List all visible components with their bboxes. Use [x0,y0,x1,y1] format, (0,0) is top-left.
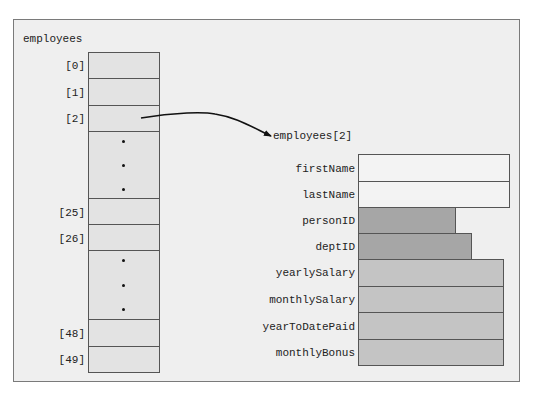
field-label: monthlySalary [269,295,355,306]
field-label: deptID [315,242,355,253]
field-monthlySalary [358,286,504,313]
field-yearlySalary [358,259,504,287]
field-label: lastName [302,190,355,201]
field-label: personID [302,216,355,227]
field-label: yearToDatePaid [263,322,355,333]
field-label: firstName [296,164,355,175]
field-personID [358,207,456,234]
struct-title: employees[2] [273,131,352,142]
field-firstName [358,154,510,182]
field-monthlyBonus [358,339,504,366]
field-label: yearlySalary [276,268,355,279]
field-label: monthlyBonus [276,348,355,359]
field-yearToDatePaid [358,312,504,340]
field-deptID [358,233,472,260]
field-lastName [358,181,510,208]
